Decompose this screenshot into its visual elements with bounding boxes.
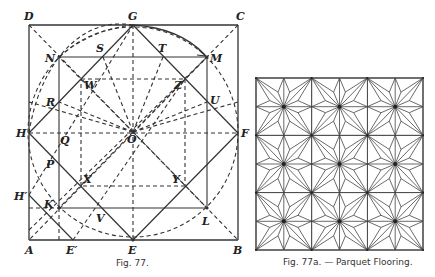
petal-edge [367, 193, 381, 216]
petal-midrib [340, 107, 368, 136]
petal-edge [256, 135, 278, 149]
petal-edge [367, 78, 381, 101]
petal-edge [367, 121, 389, 135]
petal-edge [298, 113, 312, 136]
petal-edge [312, 227, 326, 250]
grid-node-dot [311, 134, 313, 136]
tile-center-dot [282, 105, 286, 109]
petal-edge [334, 135, 340, 149]
tile-center-dot [393, 162, 397, 166]
petal-edge [334, 179, 340, 193]
petal-edge [312, 101, 326, 107]
petal-edge [290, 236, 312, 250]
petal-edge [354, 221, 368, 227]
tile-center-dot [393, 105, 397, 109]
grid-node-dot [422, 77, 424, 79]
petal-edge [298, 227, 312, 250]
grid-node-dot [366, 249, 368, 251]
petal-edge [367, 215, 381, 221]
grid-node-dot [422, 249, 424, 251]
petal-edge [401, 121, 423, 135]
petal-edge [256, 101, 270, 107]
petal-midrib [367, 193, 395, 222]
petal-edge [284, 236, 290, 250]
petal-edge [395, 193, 401, 207]
petal-edge [401, 193, 423, 207]
petal-edge [334, 78, 340, 92]
petal-edge [312, 236, 334, 250]
petal-edge [256, 135, 270, 158]
petal-edge [298, 170, 312, 193]
petal-edge [354, 158, 368, 164]
petal-edge [290, 193, 312, 207]
petal-edge [256, 215, 270, 221]
petal-edge [312, 78, 326, 101]
petal-edge [367, 101, 381, 107]
petal-edge [354, 193, 368, 216]
grid-node-dot [255, 77, 257, 79]
petal-midrib [284, 78, 312, 107]
petal-edge [409, 158, 423, 164]
petal-midrib [395, 221, 423, 250]
petal-edge [395, 78, 401, 92]
petal-edge [340, 78, 346, 92]
petal-edge [298, 164, 312, 170]
grid-node-dot [366, 77, 368, 79]
petal-edge [354, 215, 368, 221]
petal-edge [256, 121, 278, 135]
petal-edge [367, 227, 381, 250]
tile-center-dot [282, 219, 286, 223]
petal-edge [395, 121, 401, 135]
petal-edge [278, 193, 284, 207]
petal-edge [298, 78, 312, 101]
petal-edge [284, 135, 290, 149]
tile-center-dot [338, 162, 342, 166]
petal-edge [409, 193, 423, 216]
petal-edge [256, 227, 270, 250]
petal-edge [256, 107, 270, 113]
petal-edge [312, 179, 334, 193]
grid-node-dot [366, 134, 368, 136]
petal-edge [284, 78, 290, 92]
petal-edge [354, 164, 368, 170]
petal-edge [284, 179, 290, 193]
petal-edge [409, 113, 423, 136]
petal-edge [354, 113, 368, 136]
petal-edge [290, 121, 312, 135]
petal-midrib [395, 78, 423, 107]
petal-edge [354, 135, 368, 158]
grid-node-dot [255, 192, 257, 194]
petal-edge [298, 101, 312, 107]
petal-midrib [256, 193, 284, 222]
petal-midrib [367, 135, 395, 164]
petal-midrib [284, 135, 312, 164]
grid-node-dot [422, 192, 424, 194]
petal-edge [298, 215, 312, 221]
petal-edge [284, 121, 290, 135]
petal-edge [340, 121, 346, 135]
grid-node-dot [422, 134, 424, 136]
petal-midrib [284, 107, 312, 136]
petal-edge [312, 164, 326, 170]
petal-edge [395, 236, 401, 250]
petal-edge [345, 121, 367, 135]
petal-edge [354, 78, 368, 101]
petal-edge [354, 101, 368, 107]
petal-edge [312, 121, 334, 135]
petal-edge [312, 193, 326, 216]
petal-midrib [340, 135, 368, 164]
petal-edge [256, 78, 278, 92]
petal-midrib [284, 193, 312, 222]
petal-edge [278, 236, 284, 250]
petal-edge [345, 236, 367, 250]
petal-midrib [367, 107, 395, 136]
petal-edge [256, 113, 270, 136]
petal-edge [256, 179, 278, 193]
petal-edge [312, 215, 326, 221]
petal-edge [312, 170, 326, 193]
petal-midrib [256, 135, 284, 164]
petal-edge [395, 135, 401, 149]
petal-midrib [367, 221, 395, 250]
petal-edge [256, 158, 270, 164]
petal-edge [354, 107, 368, 113]
